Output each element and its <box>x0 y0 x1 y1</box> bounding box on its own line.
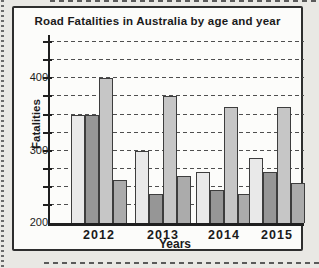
bar-2-dark-gray-2013 <box>149 194 163 223</box>
y-axis-tick-225 <box>43 204 52 206</box>
bar-4-medium-gray-2015 <box>291 183 305 223</box>
bar-3-light-gray-2014 <box>224 107 238 223</box>
bar-group-2015 <box>249 107 305 223</box>
y-axis-tick-275 <box>43 168 52 170</box>
perforated-edge-decoration <box>1 0 4 268</box>
top-dashed-rule-decoration <box>50 0 319 2</box>
bar-group-2012 <box>71 78 127 223</box>
bar-2-dark-gray-2015 <box>263 172 277 223</box>
bar-2-dark-gray-2014 <box>210 190 224 223</box>
bottom-dashed-rule-decoration <box>44 262 319 264</box>
bar-4-medium-gray-2012 <box>113 180 127 223</box>
bar-4-medium-gray-2013 <box>177 176 191 223</box>
bar-2-dark-gray-2012 <box>85 115 99 223</box>
plot-area: 4003002002012201320142015 <box>48 35 304 226</box>
bar-3-light-gray-2012 <box>99 78 113 223</box>
bar-1-lightest-gray-2013 <box>135 151 149 223</box>
bar-group-2014 <box>196 107 252 223</box>
bar-1-lightest-gray-2015 <box>249 158 263 223</box>
gridline-450 <box>50 41 304 42</box>
y-axis-tick-250 <box>43 186 52 188</box>
y-axis-tick-375 <box>43 95 52 97</box>
x-axis-title: Years <box>48 237 302 251</box>
y-tick-label: 400 <box>20 71 48 83</box>
bar-group-2013 <box>135 96 191 223</box>
y-tick-label: 300 <box>20 144 48 156</box>
bar-1-lightest-gray-2014 <box>196 172 210 223</box>
chart-title: Road Fatalities in Australia by age and … <box>14 15 301 27</box>
y-axis-tick-325 <box>43 132 52 134</box>
y-tick-label: 200 <box>20 216 48 228</box>
y-axis-tick-450 <box>43 41 52 43</box>
y-axis-tick-350 <box>43 114 52 116</box>
y-axis-tick-425 <box>43 59 52 61</box>
bar-1-lightest-gray-2012 <box>71 115 85 223</box>
gridline-425 <box>50 59 304 60</box>
bar-3-light-gray-2015 <box>277 107 291 223</box>
chart-card: Road Fatalities in Australia by age and … <box>12 6 303 251</box>
bar-3-light-gray-2013 <box>163 96 177 223</box>
